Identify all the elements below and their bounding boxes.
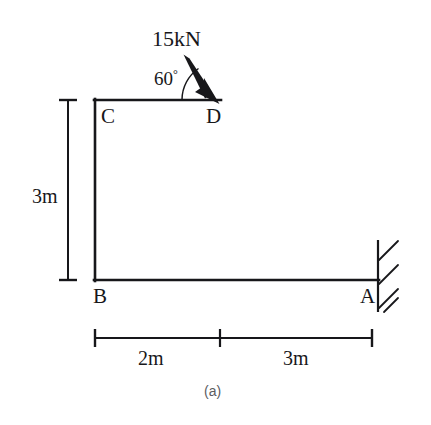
- node-label-C: C: [101, 106, 115, 127]
- load-angle-label: 60°: [154, 68, 178, 88]
- hatch-stroke: [379, 241, 398, 260]
- support-hatching: [379, 241, 398, 312]
- angle-value: 60: [154, 68, 173, 89]
- load-magnitude-label: 15kN: [152, 28, 201, 50]
- dimension-vertical-3m: [59, 100, 77, 280]
- angle-degree-symbol: °: [173, 67, 178, 81]
- dimension-label-2m: 2m: [138, 348, 164, 368]
- node-label-B: B: [93, 286, 107, 307]
- structural-frame-figure: 15kN 60° C D B A 3m 2m 3m (a): [0, 0, 431, 425]
- node-label-A: A: [360, 286, 375, 307]
- hatch-stroke: [379, 265, 398, 284]
- frame-diagram-svg: [0, 0, 431, 425]
- dimension-label-vertical-3m: 3m: [32, 186, 58, 206]
- fixed-support-A: [378, 240, 398, 312]
- frame-members: [94, 99, 379, 281]
- dimension-label-3m: 3m: [283, 348, 309, 368]
- hatch-stroke: [379, 289, 398, 308]
- figure-caption: (a): [204, 384, 221, 398]
- node-label-D: D: [206, 106, 221, 127]
- dimension-horizontal: [95, 329, 372, 347]
